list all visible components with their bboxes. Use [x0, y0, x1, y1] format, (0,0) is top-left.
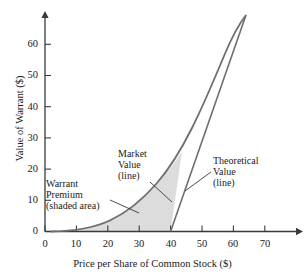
annotation-market-value: Market Value (line) [118, 148, 147, 182]
x-tick-label-10: 10 [64, 239, 88, 250]
plot-area [0, 0, 305, 278]
x-tick-label-30: 30 [127, 239, 151, 250]
warrant-value-chart: 0 10 20 30 40 50 60 0 10 20 30 40 50 60 … [0, 0, 305, 278]
x-tick-label-50: 50 [190, 239, 214, 250]
annotation-warrant-premium-line3: (shaded area) [46, 200, 100, 211]
annotation-warrant-premium: Warrant Premium (shaded area) [46, 178, 100, 212]
annotation-market-value-line1: Market [118, 148, 147, 159]
x-tick-label-60: 60 [221, 239, 245, 250]
y-tick-label-10: 10 [14, 195, 38, 206]
x-tick-label-0: 0 [33, 239, 57, 250]
x-tick-label-40: 40 [159, 239, 183, 250]
annotation-theoretical-value-line1: Theoretical [213, 155, 259, 166]
annotation-theoretical-value-line2: Value [213, 166, 259, 177]
x-axis-title: Price per Share of Common Stock ($) [0, 258, 305, 269]
y-tick-label-0: 0 [14, 226, 38, 237]
y-axis-title: Value of Warrant ($) [14, 44, 25, 194]
annotation-market-value-line3: (line) [118, 170, 147, 181]
x-tick-label-70: 70 [253, 239, 277, 250]
annotation-warrant-premium-line1: Warrant [46, 178, 100, 189]
annotation-theoretical-value: Theoretical Value (line) [213, 155, 259, 189]
annotation-theoretical-value-line3: (line) [213, 177, 259, 188]
annotation-market-value-line2: Value [118, 159, 147, 170]
theoretical-value-line [171, 15, 246, 232]
annotation-warrant-premium-line2: Premium [46, 189, 100, 200]
y-axis-arrowhead [41, 11, 48, 18]
leader-theoretical-value [185, 172, 211, 191]
x-tick-label-20: 20 [96, 239, 120, 250]
x-axis-arrowhead [296, 228, 303, 235]
